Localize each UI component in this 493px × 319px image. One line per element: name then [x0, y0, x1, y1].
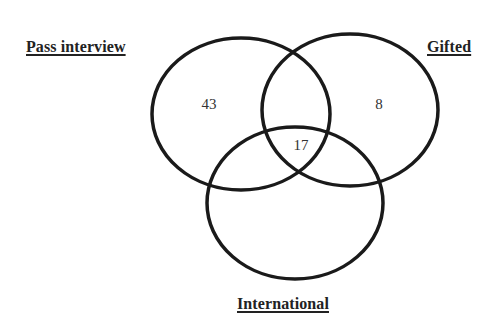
gifted-label: Gifted — [427, 38, 471, 56]
all-three-intersection-count: 17 — [294, 137, 309, 154]
pass-interview-circle — [152, 38, 330, 190]
gifted-only-count: 8 — [375, 96, 383, 113]
pass-interview-only-count: 43 — [202, 96, 217, 113]
pass-interview-label: Pass interview — [26, 38, 126, 56]
international-label: International — [237, 295, 329, 313]
gifted-circle — [262, 34, 438, 186]
venn-diagram: Pass interview Gifted International 43 8… — [0, 0, 493, 319]
